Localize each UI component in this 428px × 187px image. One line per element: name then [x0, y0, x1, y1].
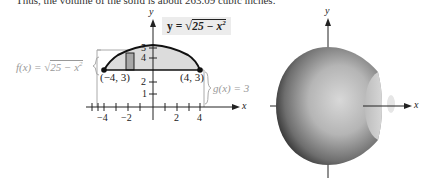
right-y-axis-label: y	[325, 5, 329, 16]
y-tick-1: 1	[142, 88, 147, 99]
x-tick-neg4: −4	[97, 112, 108, 123]
f-function-label: f(x) = √25 − x2	[16, 60, 83, 73]
x-tick-2: 2	[174, 112, 179, 123]
point-left-label: (−4, 3)	[100, 71, 130, 83]
equation-box: y = √25 − x2	[162, 17, 231, 35]
right-x-axis-label: x	[414, 99, 418, 110]
x-axis-label: x	[242, 100, 246, 111]
x-tick-4: 4	[197, 112, 202, 123]
point-right-label: (4, 3)	[180, 71, 204, 83]
representative-rectangle	[126, 53, 134, 70]
y-tick-4: 4	[141, 52, 146, 63]
y-tick-2: 2	[141, 76, 146, 87]
y-axis-label: y	[149, 6, 153, 17]
x-tick-neg2: −2	[121, 112, 132, 123]
g-function-label: g(x) = 3	[213, 82, 249, 94]
